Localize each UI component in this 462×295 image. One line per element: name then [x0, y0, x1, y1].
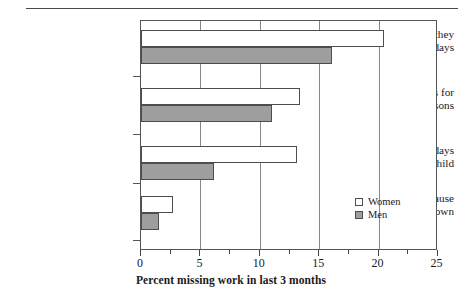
- xtick-label-5: 5: [179, 256, 219, 271]
- group-separator-tick-4: [133, 240, 140, 241]
- xtick-label-15: 15: [298, 256, 338, 271]
- legend-label-men: Men: [368, 208, 387, 221]
- legend-label-women: Women: [368, 195, 400, 208]
- legend: Women Men: [355, 195, 400, 221]
- group-separator-tick-3: [133, 183, 140, 184]
- xtick-minor-12-5: [289, 250, 290, 254]
- xtick-label-25: 25: [417, 256, 457, 271]
- legend-swatch-men-icon: [355, 211, 363, 219]
- xtick-label-0: 0: [120, 256, 160, 271]
- xtick-minor-2-5: [170, 250, 171, 254]
- xtick-minor-17-5: [348, 250, 349, 254]
- xtick-minor-22-5: [407, 250, 408, 254]
- bar-men-childcare-breakdown: [141, 213, 159, 230]
- top-rule-divider: [26, 8, 458, 9]
- legend-item-women: Women: [355, 195, 400, 208]
- legend-item-men: Men: [355, 208, 400, 221]
- bar-women-sick-child: [141, 146, 297, 163]
- figure-container: Workers reporting they missed partial da…: [0, 0, 462, 295]
- bar-men-sick-child: [141, 163, 214, 180]
- bar-women-childcare-breakdown: [141, 196, 173, 213]
- group-separator-tick-2: [133, 134, 140, 135]
- group-separator-tick-1: [133, 76, 140, 77]
- plot-area: Women Men: [140, 20, 437, 250]
- bar-women-other-family: [141, 88, 300, 105]
- x-axis-title: Percent missing work in last 3 months: [0, 274, 462, 286]
- legend-swatch-women-icon: [355, 198, 363, 206]
- xtick-label-20: 20: [358, 256, 398, 271]
- bar-women-partial-days: [141, 30, 384, 47]
- xtick-label-10: 10: [239, 256, 279, 271]
- bar-men-other-family: [141, 105, 272, 122]
- bar-men-partial-days: [141, 47, 332, 64]
- xtick-minor-7-5: [229, 250, 230, 254]
